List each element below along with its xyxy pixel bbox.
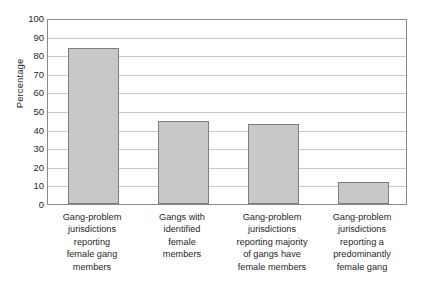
category-label: Gang-problemjurisdictionsreporting major… (229, 211, 315, 273)
plot-area (47, 19, 407, 205)
y-tick-label: 100 (18, 14, 44, 24)
y-tick-label: 20 (18, 163, 44, 173)
category-label-line: female gang (319, 261, 405, 273)
x-axis-category-labels: Gang-problemjurisdictionsreportingfemale… (47, 211, 407, 291)
category-label-line: reporting (49, 236, 135, 248)
category-label-line: of gangs have (229, 248, 315, 260)
category-label-line: Gangs with (139, 211, 225, 223)
category-label-line: jurisdictions (319, 223, 405, 235)
category-label-line: Gang-problem (319, 211, 405, 223)
category-label-line: female (139, 236, 225, 248)
y-tick-label: 70 (18, 70, 44, 80)
category-label-line: jurisdictions (229, 223, 315, 235)
category-label: Gang-problemjurisdictionsreportingfemale… (49, 211, 135, 273)
category-label-line: Gang-problem (49, 211, 135, 223)
category-label-line: female members (229, 261, 315, 273)
y-tick-label: 90 (18, 33, 44, 43)
y-tick-label: 0 (18, 200, 44, 210)
category-label-line: members (139, 248, 225, 260)
y-tick-label: 10 (18, 181, 44, 191)
category-label-line: female gang (49, 248, 135, 260)
category-label-line: identified (139, 223, 225, 235)
y-axis-tick-labels: 1009080706050403020100 (14, 0, 44, 292)
y-tick-label: 50 (18, 107, 44, 117)
category-label-line: reporting majority (229, 236, 315, 248)
y-tick-label: 40 (18, 126, 44, 136)
y-tick-label: 30 (18, 144, 44, 154)
category-label-line: predominantly (319, 248, 405, 260)
category-label-line: members (49, 261, 135, 273)
y-tick-label: 60 (18, 88, 44, 98)
bar (68, 48, 119, 204)
bar-chart: Percentage 1009080706050403020100 Gang-p… (0, 0, 422, 292)
bar (158, 121, 209, 204)
category-label-line: jurisdictions (49, 223, 135, 235)
bar (338, 182, 389, 204)
category-label-line: Gang-problem (229, 211, 315, 223)
category-label: Gangs withidentifiedfemalemembers (139, 211, 225, 261)
category-label-line: reporting a (319, 236, 405, 248)
gridline (48, 38, 406, 39)
bar (248, 124, 299, 204)
y-tick-label: 80 (18, 51, 44, 61)
category-label: Gang-problemjurisdictionsreporting apred… (319, 211, 405, 273)
